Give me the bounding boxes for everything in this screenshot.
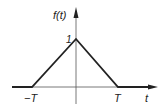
y-axis-label: f(t) xyxy=(53,9,67,21)
neg-t-tick-label: −T xyxy=(24,92,38,104)
y-axis-arrow-icon xyxy=(74,7,79,18)
signal-line xyxy=(12,39,152,87)
triangle-pulse-chart: f(t) 1 −T T t xyxy=(0,0,168,111)
peak-label: 1 xyxy=(66,34,72,45)
x-axis-label: t xyxy=(145,92,149,104)
pos-t-tick-label: T xyxy=(114,92,122,104)
